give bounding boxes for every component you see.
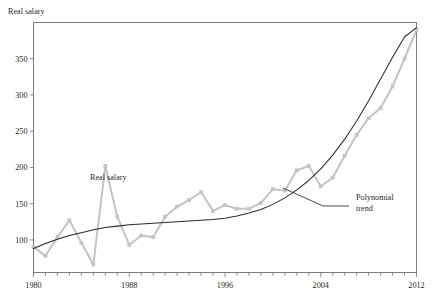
y-tick-label: 250 xyxy=(15,127,27,136)
series-data-point xyxy=(379,106,383,110)
series-line-polynomial-trend xyxy=(34,28,417,249)
y-tick-label: 300 xyxy=(15,91,27,100)
x-tick-label: 2012 xyxy=(408,281,424,290)
y-tick-label: 350 xyxy=(15,55,27,64)
series-data-point xyxy=(91,263,95,267)
annotation-polynomial-trend-line2: trend xyxy=(356,204,373,213)
y-tick-label: 150 xyxy=(15,200,27,209)
x-tick-label: 1980 xyxy=(25,281,41,290)
series-data-point xyxy=(259,201,263,205)
x-tick-label: 1996 xyxy=(217,281,233,290)
annotation-real-salary: Real salary xyxy=(90,173,128,182)
series-data-point xyxy=(103,164,107,168)
plot-area xyxy=(32,28,419,267)
series-data-point xyxy=(271,187,275,191)
series-data-point xyxy=(247,207,251,211)
series-data-point xyxy=(44,254,48,258)
series-data-point xyxy=(355,133,359,137)
series-data-point xyxy=(175,205,179,209)
series-data-point xyxy=(127,243,131,247)
series-data-point xyxy=(163,215,167,219)
x-axis: 19801988199620042012 xyxy=(25,273,424,290)
y-tick-label: 100 xyxy=(15,236,27,245)
series-data-point xyxy=(115,215,119,219)
series-data-point xyxy=(187,198,191,202)
chart-figure: Real salary 100150200250300350 198019881… xyxy=(0,0,433,305)
plot-frame xyxy=(34,23,417,273)
series-data-point xyxy=(139,234,143,238)
series-data-point xyxy=(403,57,407,61)
series-data-point xyxy=(295,168,299,172)
series-data-point xyxy=(79,241,83,245)
y-tick-label: 200 xyxy=(15,163,27,172)
series-data-point xyxy=(367,116,371,120)
series-data-point xyxy=(151,235,155,239)
series-data-point xyxy=(331,176,335,180)
series-data-point xyxy=(235,207,239,211)
y-axis-title: Real salary xyxy=(8,7,46,16)
series-data-point xyxy=(68,218,72,222)
annotation-polynomial-trend-line1: Polynomial xyxy=(356,193,394,202)
series-data-point xyxy=(199,190,203,194)
series-data-point xyxy=(319,184,323,188)
series-line-real-salary xyxy=(34,30,417,265)
chart-canvas: Real salary 100150200250300350 198019881… xyxy=(0,0,433,305)
x-tick-label: 1988 xyxy=(121,281,137,290)
x-tick-label: 2004 xyxy=(313,281,329,290)
series-data-point xyxy=(211,209,215,213)
series-data-point xyxy=(391,84,395,88)
series-data-point xyxy=(307,164,311,168)
y-axis: 100150200250300350 xyxy=(15,55,33,245)
series-data-point xyxy=(223,203,227,207)
polynomial-trend-leader-line xyxy=(283,188,349,206)
series-data-point xyxy=(343,154,347,158)
